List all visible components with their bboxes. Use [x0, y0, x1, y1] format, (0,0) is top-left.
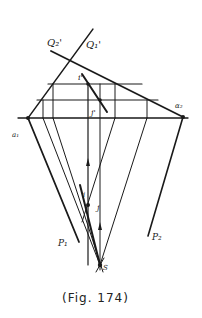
- label-p1: P₁: [57, 238, 68, 248]
- arrow-up-icon: [86, 158, 90, 166]
- label-i: i: [83, 191, 85, 199]
- label-j-prime: j': [89, 108, 96, 117]
- segment-ij-prime: [82, 74, 107, 112]
- label-alpha2: α₂: [175, 102, 183, 110]
- point-a1: [26, 116, 30, 120]
- figure-caption: (Fig. 174): [62, 291, 129, 305]
- label-p2: P₂: [151, 232, 162, 242]
- label-s: S: [103, 264, 108, 272]
- trace-line-p1: [28, 118, 79, 242]
- point-j-prime: [98, 98, 102, 102]
- point-i-prime: [86, 82, 90, 86]
- point-s: [98, 263, 102, 267]
- label-j: j: [95, 203, 100, 212]
- point-i: [86, 203, 90, 207]
- projection-line-4: [100, 118, 147, 265]
- arrow-up-icon: [98, 222, 102, 230]
- point-alpha2: [181, 115, 185, 119]
- label-a1: a₁: [12, 131, 19, 139]
- label-q1-prime: Q₁': [86, 39, 101, 50]
- label-q2-prime: Q₂': [47, 37, 62, 48]
- trace-line-p2: [148, 117, 183, 236]
- geometry-diagram: Q₂' Q₁' a₁ α₂ i' j' i j P₁ P₂ S (Fig. 17…: [0, 0, 202, 318]
- label-i-prime: i': [78, 73, 83, 82]
